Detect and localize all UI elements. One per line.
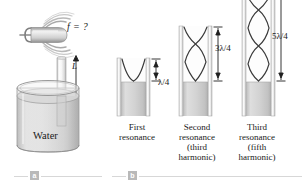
water-beaker — [17, 81, 79, 153]
caption-line: resonance — [168, 132, 226, 142]
frequency-label: f = ? — [67, 22, 88, 33]
tube-third-resonance — [242, 0, 275, 116]
length-label: L — [72, 62, 77, 71]
panel-rule-left — [112, 176, 126, 177]
caption-line: (third — [168, 142, 226, 152]
panel-rule-left — [14, 176, 28, 177]
panel-rule-right — [41, 176, 102, 177]
tuning-fork-icon — [20, 28, 67, 43]
caption-line: First — [108, 122, 166, 132]
water-label: Water — [33, 130, 58, 141]
panel-rule-right — [139, 176, 302, 177]
tube-second-resonance — [179, 26, 212, 116]
tube-submerged-section — [57, 96, 66, 126]
panel-marker-b: b — [112, 171, 302, 181]
caption-line: resonance — [108, 132, 166, 142]
caption-line: Third — [228, 122, 286, 132]
caption-first-resonance: First resonance — [108, 122, 166, 142]
tube-first-resonance — [117, 58, 150, 116]
panel-marker-a: a — [14, 171, 102, 181]
caption-line: resonance — [228, 132, 286, 142]
caption-line: Second — [168, 122, 226, 132]
caption-third-resonance: Third resonance (fifth harmonic) — [228, 122, 286, 162]
panel-label-a: a — [30, 171, 39, 180]
wavelength-dimension-2 — [214, 27, 223, 81]
wavelength-label-second: 3λ/4 — [215, 44, 231, 53]
caption-second-resonance: Second resonance (third harmonic) — [168, 122, 226, 162]
wavelength-label-third: 5λ/4 — [272, 32, 288, 41]
caption-line: harmonic) — [228, 152, 286, 162]
caption-line: harmonic) — [168, 152, 226, 162]
wavelength-label-first: λ/4 — [158, 78, 169, 87]
resonance-figure: f = ? L Water λ/4 3λ/4 5λ/4 First resona… — [0, 0, 306, 190]
caption-line: (fifth — [228, 142, 286, 152]
panel-label-b: b — [128, 171, 137, 180]
